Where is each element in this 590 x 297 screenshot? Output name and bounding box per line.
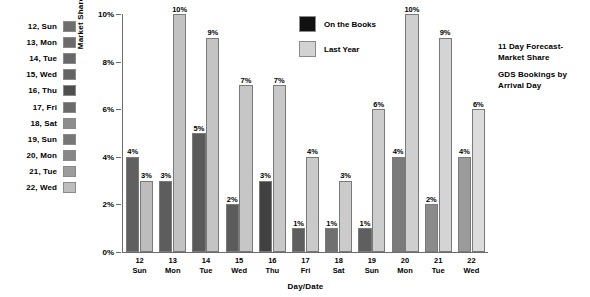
series-legend-swatch <box>299 16 316 32</box>
x-tick-day: 22 <box>455 256 488 266</box>
bar-group: 4%6% <box>455 14 488 252</box>
day-legend-label: 14, Tue <box>29 54 63 63</box>
y-tick-label: 8% <box>102 57 114 66</box>
bar-last-year: 3% <box>140 181 153 252</box>
bar-last-year: 10% <box>173 14 186 252</box>
x-tick-label: 17Fri <box>289 256 322 275</box>
x-tick-day: 19 <box>355 256 388 266</box>
x-tick-weekday: Sun <box>123 266 156 276</box>
x-tick-day: 12 <box>123 256 156 266</box>
y-tick-mark <box>116 109 121 110</box>
bar-value-label: 4% <box>307 148 318 158</box>
bar-value-label: 7% <box>241 77 252 87</box>
title-line-2: Market Share <box>498 52 586 63</box>
chart-screenshot: 12, Sun13, Mon14, Tue15, Wed16, Thu17, F… <box>0 0 590 297</box>
day-legend-label: 12, Sun <box>28 22 63 31</box>
title-line-1: 11 Day Forecast- <box>498 41 586 52</box>
x-tick-weekday: Sat <box>322 266 355 276</box>
day-legend-label: 22, Wed <box>26 183 63 192</box>
x-tick-weekday: Tue <box>422 266 455 276</box>
bar-value-label: 6% <box>373 101 384 111</box>
bar-on-the-books: 2% <box>226 204 239 252</box>
day-legend-row: 17, Fri <box>8 99 76 115</box>
bar-value-label: 1% <box>293 220 304 230</box>
x-tick-weekday: Mon <box>388 266 421 276</box>
y-tick-mark <box>116 14 121 15</box>
day-legend-label: 18, Sat <box>31 119 64 128</box>
day-legend-swatch <box>63 166 76 177</box>
bar-value-label: 3% <box>340 172 351 182</box>
bar-last-year: 7% <box>273 85 286 252</box>
bar-on-the-books: 1% <box>358 228 371 252</box>
bar-on-the-books: 3% <box>259 181 272 252</box>
y-tick-label: 10% <box>98 10 114 19</box>
x-tick-day: 17 <box>289 256 322 266</box>
bar-group: 4%10% <box>388 14 421 252</box>
x-tick-weekday: Wed <box>455 266 488 276</box>
day-legend-row: 13, Mon <box>8 34 76 50</box>
bar-last-year: 3% <box>339 181 352 252</box>
bar-on-the-books: 1% <box>325 228 338 252</box>
x-axis-tick-labels: 12Sun13Mon14Tue15Wed16Thu17Fri18Sat19Sun… <box>123 256 488 282</box>
day-legend-label: 15, Wed <box>26 70 63 79</box>
day-legend-label: 13, Mon <box>27 38 63 47</box>
y-tick-label: 4% <box>102 152 114 161</box>
bar-last-year: 10% <box>405 14 418 252</box>
x-tick-weekday: Tue <box>189 266 222 276</box>
x-tick-label: 19Sun <box>355 256 388 275</box>
x-axis-line <box>122 252 488 253</box>
series-legend: On the BooksLast Year <box>299 16 376 66</box>
bar-group: 3%7% <box>256 14 289 252</box>
bar-value-label: 10% <box>172 6 187 16</box>
day-legend-row: 12, Sun <box>8 18 76 34</box>
series-legend-label: Last Year <box>316 45 359 54</box>
bar-value-label: 4% <box>459 148 470 158</box>
bar-value-label: 7% <box>274 77 285 87</box>
series-legend-label: On the Books <box>316 20 376 29</box>
bar-value-label: 5% <box>194 125 205 135</box>
day-legend-swatch <box>63 182 76 193</box>
x-tick-label: 21Tue <box>422 256 455 275</box>
bar-group: 4%3% <box>123 14 156 252</box>
x-tick-weekday: Wed <box>223 266 256 276</box>
day-legend-label: 17, Fri <box>33 103 63 112</box>
day-legend-row: 21, Tue <box>8 164 76 180</box>
title-line-4: Arrival Day <box>498 80 586 91</box>
x-tick-day: 18 <box>322 256 355 266</box>
bar-value-label: 2% <box>426 196 437 206</box>
plot-area: Market Share % 0%2%4%6%8%10% 4%3%3%10%5%… <box>78 14 490 284</box>
day-legend-swatch <box>63 53 76 64</box>
bar-group: 3%10% <box>156 14 189 252</box>
bar-on-the-books: 2% <box>425 204 438 252</box>
bar-value-label: 4% <box>127 148 138 158</box>
y-tick-label: 0% <box>102 248 114 257</box>
day-legend: 12, Sun13, Mon14, Tue15, Wed16, Thu17, F… <box>8 18 76 196</box>
x-tick-label: 13Mon <box>156 256 189 275</box>
bar-last-year: 6% <box>472 109 485 252</box>
day-legend-row: 15, Wed <box>8 67 76 83</box>
x-tick-label: 22Wed <box>455 256 488 275</box>
day-legend-swatch <box>63 118 76 129</box>
x-tick-day: 20 <box>388 256 421 266</box>
x-tick-label: 18Sat <box>322 256 355 275</box>
bar-on-the-books: 4% <box>126 157 139 252</box>
day-legend-label: 19, Sun <box>28 135 63 144</box>
bar-last-year: 9% <box>206 38 219 252</box>
bar-on-the-books: 5% <box>192 133 205 252</box>
bar-on-the-books: 3% <box>159 181 172 252</box>
day-legend-row: 18, Sat <box>8 115 76 131</box>
bar-on-the-books: 4% <box>392 157 405 252</box>
day-legend-label: 16, Thu <box>28 86 63 95</box>
x-tick-weekday: Mon <box>156 266 189 276</box>
x-tick-day: 21 <box>422 256 455 266</box>
bar-value-label: 9% <box>207 29 218 39</box>
day-legend-swatch <box>63 134 76 145</box>
x-tick-day: 13 <box>156 256 189 266</box>
y-axis-tick-labels: 0%2%4%6%8%10% <box>84 14 114 252</box>
y-tick-mark <box>116 157 121 158</box>
x-tick-day: 16 <box>256 256 289 266</box>
x-tick-day: 15 <box>223 256 256 266</box>
day-legend-swatch <box>63 37 76 48</box>
bar-last-year: 7% <box>239 85 252 252</box>
bar-group: 5%9% <box>189 14 222 252</box>
